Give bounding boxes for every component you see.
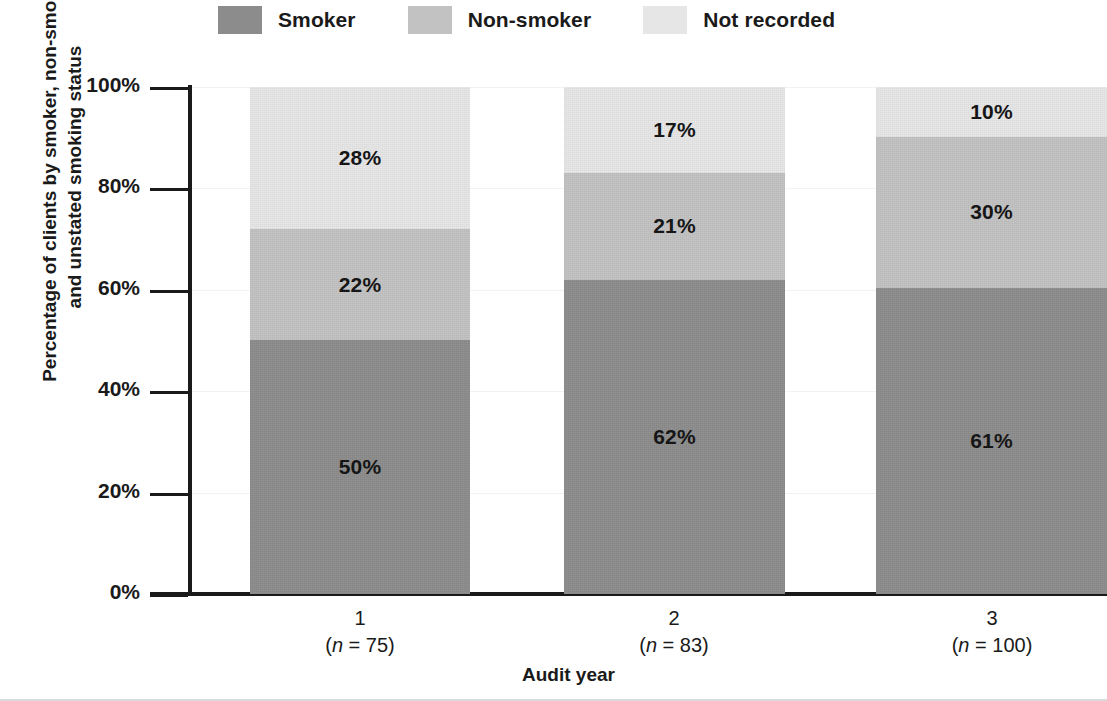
bar-segment: 17% xyxy=(564,87,785,173)
bar-segment-label: 50% xyxy=(339,455,382,479)
bar-segment-label: 28% xyxy=(339,146,382,170)
bar-segment-label: 17% xyxy=(653,118,696,142)
legend-label-smoker: Smoker xyxy=(278,8,356,32)
n-symbol: n xyxy=(332,634,343,656)
y-tick-mark xyxy=(150,493,188,496)
y-tick-label: 60% xyxy=(20,276,140,300)
bar-segment-label: 22% xyxy=(339,273,382,297)
x-category-sample-size: (n = 75) xyxy=(250,632,470,659)
y-tick-mark xyxy=(150,290,188,293)
y-tick-label: 20% xyxy=(20,479,140,503)
bar-audit-year-2: 17%21%62% xyxy=(564,87,785,594)
legend-item-non-smoker: Non-smoker xyxy=(408,6,592,34)
bar-segment: 61% xyxy=(876,288,1107,594)
bar-segment-label: 61% xyxy=(970,429,1013,453)
bar-segment-label: 21% xyxy=(653,214,696,238)
legend-label-not-recorded: Not recorded xyxy=(703,8,835,32)
legend-label-non-smoker: Non-smoker xyxy=(468,8,592,32)
x-category-name: 2 xyxy=(564,605,784,632)
y-tick-label: 100% xyxy=(20,73,140,97)
stacked-bar-chart: Smoker Non-smoker Not recorded Percentag… xyxy=(0,0,1107,701)
y-tick-mark xyxy=(150,87,188,90)
x-axis-title: Audit year xyxy=(0,664,1107,686)
legend-swatch-smoker xyxy=(218,6,262,34)
bar-segment: 28% xyxy=(250,87,470,229)
legend-item-smoker: Smoker xyxy=(218,6,356,34)
bar-segment: 22% xyxy=(250,229,470,341)
bar-audit-year-1: 28%22%50% xyxy=(250,87,470,594)
y-tick-label: 40% xyxy=(20,377,140,401)
bar-segment: 62% xyxy=(564,280,785,594)
x-category-name: 3 xyxy=(882,605,1102,632)
bar-segment-label: 62% xyxy=(653,425,696,449)
bar-segment-label: 10% xyxy=(970,100,1013,124)
x-category-2: 2(n = 83) xyxy=(564,605,784,659)
x-category-sample-size: (n = 83) xyxy=(564,632,784,659)
legend-item-not-recorded: Not recorded xyxy=(643,6,835,34)
legend-swatch-non-smoker xyxy=(408,6,452,34)
x-category-1: 1(n = 75) xyxy=(250,605,470,659)
y-tick-mark xyxy=(150,188,188,191)
bar-audit-year-3: 10%30%61% xyxy=(876,87,1107,594)
n-symbol: n xyxy=(646,634,657,656)
x-axis-title-text: Audit year xyxy=(522,664,615,686)
x-category-name: 1 xyxy=(250,605,470,632)
bar-segment: 50% xyxy=(250,340,470,594)
bar-segment: 10% xyxy=(876,87,1107,137)
bar-segment: 21% xyxy=(564,173,785,279)
chart-legend: Smoker Non-smoker Not recorded xyxy=(218,2,835,38)
x-category-3: 3(n = 100) xyxy=(882,605,1102,659)
plot-area: 100%80%60%40%20%0% 28%22%50%17%21%62%10%… xyxy=(188,87,1107,594)
bar-segment-label: 30% xyxy=(970,200,1013,224)
y-tick-label: 0% xyxy=(20,580,140,604)
bar-segment: 30% xyxy=(876,137,1107,288)
legend-swatch-not-recorded xyxy=(643,6,687,34)
y-tick-mark xyxy=(150,391,188,394)
y-tick-label: 80% xyxy=(20,174,140,198)
x-category-sample-size: (n = 100) xyxy=(882,632,1102,659)
n-symbol: n xyxy=(958,634,969,656)
y-tick-mark xyxy=(150,594,188,597)
